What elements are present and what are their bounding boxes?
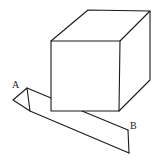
cube (51, 10, 150, 111)
cube-front-face (51, 41, 120, 111)
prism-bottom-edge (30, 111, 129, 153)
prism-end-face-a (13, 88, 30, 111)
cube-top-face (51, 10, 150, 41)
cube-prism-diagram: A B (0, 0, 158, 165)
prism-end-edge-b (128, 130, 129, 153)
label-a: A (12, 79, 20, 90)
prism-upper-edge-right (82, 111, 128, 130)
prism-top-edge (27, 88, 51, 98)
label-b: B (130, 120, 137, 131)
